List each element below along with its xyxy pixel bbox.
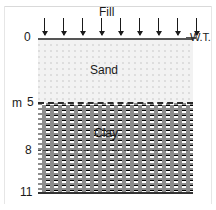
fill-label: Fill xyxy=(99,5,114,19)
load-arrow xyxy=(101,18,102,35)
clay-layer-label: Clay xyxy=(92,126,120,140)
soil-profile-figure: Fill W.T. Sand Clay m 0 5 8 11 xyxy=(0,0,216,210)
load-arrow xyxy=(177,18,178,35)
sand-clay-interface-line xyxy=(38,102,193,104)
load-arrow xyxy=(120,18,121,35)
load-arrow xyxy=(158,18,159,35)
fill-load-arrow-group xyxy=(38,18,193,39)
depth-tick-5: 5 xyxy=(27,95,34,109)
depth-unit-label: m xyxy=(12,96,22,110)
water-table-label: W.T. xyxy=(190,31,211,43)
depth-tick-8: 8 xyxy=(25,143,32,157)
load-arrow xyxy=(63,18,64,35)
figure-frame-right-border xyxy=(211,6,212,204)
depth-8m-line xyxy=(38,150,193,151)
load-arrow xyxy=(139,18,140,35)
clay-base-line xyxy=(38,192,193,194)
figure-frame-left-border xyxy=(4,6,5,204)
depth-tick-0: 0 xyxy=(24,30,31,44)
depth-tick-11: 11 xyxy=(20,185,32,199)
clay-layer-block xyxy=(38,103,193,193)
sand-layer-label: Sand xyxy=(90,63,118,77)
load-arrow xyxy=(44,18,45,35)
load-arrow xyxy=(82,18,83,35)
